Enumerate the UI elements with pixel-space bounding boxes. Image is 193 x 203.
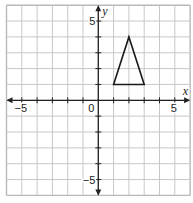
y-tick-label: −5 [83, 174, 96, 186]
origin-label: 0 [88, 102, 94, 114]
axes [7, 5, 191, 195]
x-axis-arrow-left-icon [7, 97, 13, 103]
tick-labels: −555−50xy [15, 4, 189, 185]
x-axis-label: x [182, 84, 189, 98]
coordinate-grid: −555−50xy [0, 0, 193, 203]
y-axis-arrow-down-icon [95, 189, 101, 195]
y-tick-label: 5 [89, 15, 95, 27]
x-tick-label: 5 [171, 102, 177, 114]
x-tick-label: −5 [15, 102, 28, 114]
y-axis-label: y [101, 4, 108, 18]
y-axis-arrow-up-icon [95, 5, 101, 11]
